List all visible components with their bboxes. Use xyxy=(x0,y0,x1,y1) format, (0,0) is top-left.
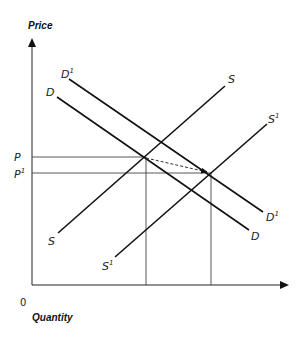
s-upper-label: S xyxy=(228,73,235,86)
d1-lower-label: D1 xyxy=(266,210,279,224)
price-p-label: P xyxy=(14,151,21,164)
d1-upper-label: D1 xyxy=(61,67,74,81)
demand-curve-d xyxy=(57,97,249,230)
supply-curve-s xyxy=(58,86,225,233)
supply-curve-s1 xyxy=(115,124,267,257)
s-lower-label: S xyxy=(48,235,55,248)
demand-curve-d1 xyxy=(69,79,263,212)
s1-lower-label: S1 xyxy=(102,259,113,273)
y-axis-arrow-icon xyxy=(28,38,36,47)
origin-label: 0 xyxy=(20,297,26,308)
supply-demand-diagram: Price Quantity 0 P P1 D1 D S S1 D1 D S S… xyxy=(0,0,305,346)
d-lower-label: D xyxy=(251,230,259,243)
d-upper-label: D xyxy=(46,86,54,99)
price-p1-label: P1 xyxy=(14,167,25,181)
x-axis-arrow-icon xyxy=(280,281,289,289)
y-axis-title: Price xyxy=(28,20,53,31)
x-axis-title: Quantity xyxy=(32,312,73,323)
s1-upper-label: S1 xyxy=(268,112,279,126)
